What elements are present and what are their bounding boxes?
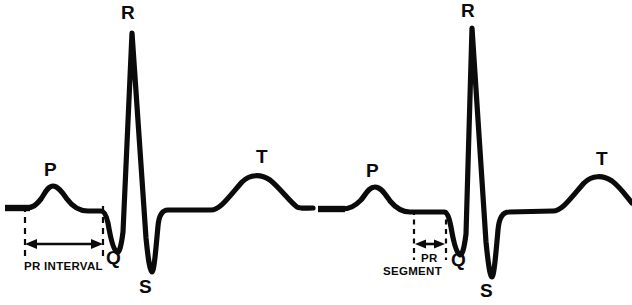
right-t-wave-label: T <box>596 149 608 168</box>
left-s-wave-label: S <box>139 277 152 296</box>
right-panel-group <box>318 28 632 277</box>
right-p-wave-label: P <box>366 161 379 180</box>
ecg-figure: P R Q S T PR INTERVAL P R Q S T PR SEGME… <box>0 0 632 305</box>
left-t-wave-label: T <box>256 147 268 166</box>
right-r-wave-label: R <box>461 1 475 20</box>
left-q-wave-label: Q <box>106 248 121 267</box>
left-p-wave-label: P <box>44 160 57 179</box>
right-ecg-trace <box>341 28 632 277</box>
left-ecg-trace <box>26 33 313 272</box>
pr-interval-label: PR INTERVAL <box>24 261 103 273</box>
left-r-wave-label: R <box>121 3 135 22</box>
right-q-wave-label: Q <box>451 250 466 269</box>
pr-segment-arrow-head-left <box>415 240 426 249</box>
right-s-wave-label: S <box>480 281 493 300</box>
pr-interval-arrow-head-right <box>91 239 103 249</box>
pr-segment-label-line1: PR <box>421 253 438 265</box>
pr-interval-arrow-head-left <box>25 239 37 249</box>
pr-segment-label-line2: SEGMENT <box>383 266 442 278</box>
pr-segment-arrow-head-right <box>434 240 445 249</box>
